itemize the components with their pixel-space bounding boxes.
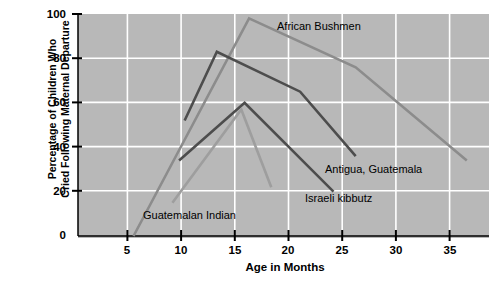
series-label-israeli-kibbutz: Israeli kibbutz (305, 192, 372, 204)
y-axis-title-line2: Cried Following Maternal Departure (59, 20, 71, 197)
series-label-guatemalan-indian: Guatemalan Indian (143, 209, 236, 221)
xtick-label-5: 5 (112, 244, 142, 256)
series-label-antigua-guatemala: Antigua, Guatemala (325, 163, 422, 175)
grid-lines (78, 14, 489, 235)
data-series-group (134, 18, 467, 236)
chart-figure: 100 80 60 40 20 0 5 10 15 20 25 30 35 Pe… (0, 0, 502, 283)
xtick-label-15: 15 (220, 244, 250, 256)
series-label-african-bushmen: African Bushmen (277, 20, 361, 32)
xtick-label-20: 20 (273, 244, 303, 256)
ytick-label-0: 0 (32, 229, 66, 241)
series-line-african-bushmen (134, 18, 467, 236)
axis-spines (78, 14, 489, 236)
x-axis-title: Age in Months (140, 261, 430, 273)
series-line-antigua-guatemala (185, 52, 356, 156)
xtick-label-10: 10 (166, 244, 196, 256)
y-tick-marks (72, 14, 82, 191)
y-axis-title: Percentage of Children Who Cried Followi… (46, 4, 72, 214)
xtick-label-25: 25 (327, 244, 357, 256)
xtick-label-35: 35 (435, 244, 465, 256)
chart-svg (0, 0, 502, 283)
xtick-label-30: 30 (381, 244, 411, 256)
y-axis-title-line1: Percentage of Children Who (46, 39, 58, 180)
